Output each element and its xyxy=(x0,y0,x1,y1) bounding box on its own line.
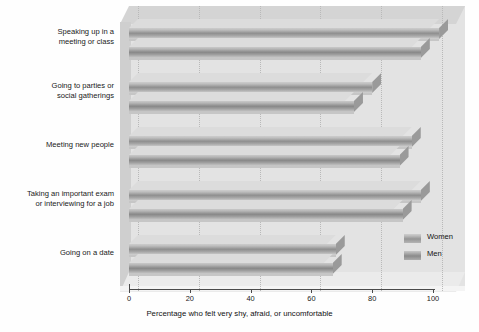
category-label-line1: Taking an important exam xyxy=(0,189,114,199)
bar-women-row4[interactable] xyxy=(129,190,421,201)
x-axis-line xyxy=(129,289,435,290)
bar-top-face xyxy=(129,38,421,47)
bar-top-face xyxy=(129,73,372,82)
category-label-1: Speaking up in ameeting or class xyxy=(0,27,114,46)
category-label-line2: or interviewing for a job xyxy=(0,199,114,209)
x-tick-60 xyxy=(311,289,312,293)
bar-front-face xyxy=(129,209,403,220)
x-tick-80 xyxy=(372,289,373,293)
bar-front-face xyxy=(129,263,333,274)
bar-shadow xyxy=(129,112,354,114)
category-label-line2: meeting or class xyxy=(0,37,114,47)
legend-label-men: Men xyxy=(427,249,442,258)
x-axis-title: Percentage who felt very shy, afraid, or… xyxy=(0,309,479,318)
bar-front-face xyxy=(129,47,421,58)
category-label-3: Meeting new people xyxy=(0,140,114,150)
bar-men-row4[interactable] xyxy=(129,209,403,220)
x-tick-20 xyxy=(190,289,191,293)
bar-front-face xyxy=(129,190,421,201)
bar-shadow xyxy=(129,220,403,222)
category-label-line1: Meeting new people xyxy=(0,140,114,150)
bar-men-row3[interactable] xyxy=(129,155,400,166)
legend-label-women: Women xyxy=(427,232,453,241)
category-label-2: Going to parties orsocial gatherings xyxy=(0,81,114,100)
category-label-5: Going on a date xyxy=(0,248,114,258)
x-tick-label-80: 80 xyxy=(368,294,376,303)
bar-top-face xyxy=(129,235,336,244)
legend-item-women[interactable]: Women xyxy=(404,231,476,248)
bar-front-face xyxy=(129,244,336,255)
bar-top-face xyxy=(129,146,400,155)
bar-top-face xyxy=(129,181,421,190)
x-tick-label-100: 100 xyxy=(427,294,439,303)
bar-top-face xyxy=(129,19,439,28)
x-tick-label-60: 60 xyxy=(307,294,315,303)
bar-men-row1[interactable] xyxy=(129,47,421,58)
bar-top-face xyxy=(129,92,354,101)
legend-swatch-men xyxy=(404,251,421,260)
bar-front-face xyxy=(129,101,354,112)
x-tick-100 xyxy=(433,289,434,293)
x-tick-0 xyxy=(129,289,130,293)
bar-top-face xyxy=(129,254,333,263)
category-label-4: Taking an important examor interviewing … xyxy=(0,189,114,208)
category-label-line1: Going to parties or xyxy=(0,81,114,91)
bar-front-face xyxy=(129,136,412,147)
bar-end-cap xyxy=(333,254,342,274)
bar-end-cap xyxy=(439,19,448,39)
bar-top-face xyxy=(129,200,403,209)
x-tick-label-40: 40 xyxy=(246,294,254,303)
bar-front-face xyxy=(129,28,439,39)
bar-chart: Speaking up in ameeting or classGoing to… xyxy=(0,0,479,332)
bar-women-row2[interactable] xyxy=(129,82,372,93)
bar-end-cap xyxy=(403,200,412,220)
bar-top-face xyxy=(129,127,412,136)
bar-women-row1[interactable] xyxy=(129,28,439,39)
bar-women-row3[interactable] xyxy=(129,136,412,147)
bar-end-cap xyxy=(336,235,345,255)
category-axis-labels: Speaking up in ameeting or classGoing to… xyxy=(0,0,118,291)
legend-item-men[interactable]: Men xyxy=(404,248,476,265)
bar-women-row5[interactable] xyxy=(129,244,336,255)
x-tick-label-0: 0 xyxy=(127,294,131,303)
bar-men-row5[interactable] xyxy=(129,263,333,274)
bar-end-cap xyxy=(400,146,409,166)
bar-shadow xyxy=(129,166,400,168)
bar-end-cap xyxy=(421,181,430,201)
bar-end-cap xyxy=(412,127,421,147)
legend: Women Men xyxy=(404,231,476,265)
bar-men-row2[interactable] xyxy=(129,101,354,112)
x-tick-40 xyxy=(251,289,252,293)
bar-front-face xyxy=(129,155,400,166)
bar-shadow xyxy=(129,274,333,276)
bar-end-cap xyxy=(354,92,363,112)
bar-end-cap xyxy=(372,73,381,93)
category-label-line1: Going on a date xyxy=(0,248,114,258)
bar-front-face xyxy=(129,82,372,93)
category-label-line1: Speaking up in a xyxy=(0,27,114,37)
legend-swatch-women xyxy=(404,234,421,243)
category-label-line2: social gatherings xyxy=(0,91,114,101)
x-tick-label-20: 20 xyxy=(186,294,194,303)
bar-shadow xyxy=(129,58,421,60)
bar-end-cap xyxy=(421,38,430,58)
